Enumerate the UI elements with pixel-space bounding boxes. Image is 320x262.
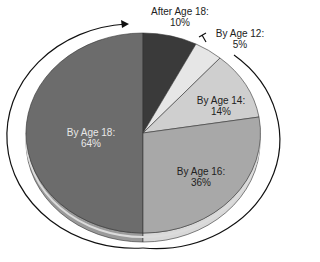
label-by-age-14-pct: 14% xyxy=(188,106,254,117)
label-after-age-18: After Age 18: 10% xyxy=(140,6,220,28)
label-after-age-18-pct: 10% xyxy=(140,17,220,28)
arrowhead-icon xyxy=(121,20,129,28)
label-by-age-18-name: By Age 18: xyxy=(56,127,126,138)
label-by-age-14-name: By Age 14: xyxy=(188,95,254,106)
label-by-age-18-pct: 64% xyxy=(56,138,126,149)
label-by-age-18: By Age 18: 64% xyxy=(56,127,126,149)
label-by-age-12: By Age 12: 5% xyxy=(205,28,275,50)
label-by-age-16-pct: 36% xyxy=(166,177,236,188)
label-by-age-12-name: By Age 12: xyxy=(205,28,275,39)
label-by-age-16: By Age 16: 36% xyxy=(166,166,236,188)
label-by-age-16-name: By Age 16: xyxy=(166,166,236,177)
label-after-age-18-name: After Age 18: xyxy=(140,6,220,17)
label-by-age-12-pct: 5% xyxy=(205,39,275,50)
label-by-age-14: By Age 14: 14% xyxy=(188,95,254,117)
